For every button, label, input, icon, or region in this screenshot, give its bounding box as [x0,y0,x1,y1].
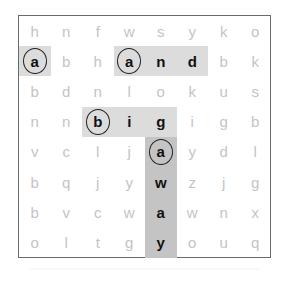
grid-cell-r7-c1[interactable]: l [51,227,83,257]
grid-cell-r4-c7[interactable]: l [240,137,272,167]
grid-cell-r5-c1[interactable]: q [51,167,83,197]
grid-cell-r0-c5[interactable]: y [177,16,209,46]
grid-cell-r5-c2[interactable]: j [82,167,114,197]
grid-letter: o [157,83,165,100]
grid-cell-r3-c4[interactable]: g [145,107,177,137]
grid-cell-r2-c0[interactable]: b [19,76,51,106]
grid-cell-r3-c7[interactable]: b [240,107,272,137]
grid-cell-r0-c3[interactable]: w [114,16,146,46]
grid-cell-r1-c4[interactable]: n [145,46,177,76]
grid-cell-r0-c7[interactable]: o [240,16,272,46]
word-search-board: hnfwsykoabhandbkbdnlokusnnbigigbvcljaydl… [18,15,271,258]
grid-letter: w [124,23,135,40]
grid-cell-r1-c5[interactable]: d [177,46,209,76]
grid-cell-r0-c2[interactable]: f [82,16,114,46]
grid-cell-r1-c7[interactable]: k [240,46,272,76]
grid-cell-r6-c5[interactable]: w [177,197,209,227]
grid-letter: l [65,234,68,251]
grid-cell-r7-c2[interactable]: t [82,227,114,257]
grid-cell-r1-c2[interactable]: h [82,46,114,76]
grid-letter: w [187,204,198,221]
grid-cell-r3-c0[interactable]: n [19,107,51,137]
grid-cell-r7-c7[interactable]: q [240,227,272,257]
grid-cell-r4-c2[interactable]: l [82,137,114,167]
grid-letter: g [156,113,165,130]
grid-cell-r7-c3[interactable]: g [114,227,146,257]
grid-cell-r2-c6[interactable]: u [208,76,240,106]
grid-letter: y [157,234,165,251]
grid-letter: a [31,53,39,70]
grid-cell-r5-c4[interactable]: w [145,167,177,197]
grid-cell-r4-c6[interactable]: d [208,137,240,167]
grid-letter: g [125,234,133,251]
grid-letter: o [188,234,196,251]
grid-cell-r4-c4[interactable]: a [145,137,177,167]
grid-cell-r2-c7[interactable]: s [240,76,272,106]
grid-letter: y [189,143,197,160]
grid-cell-r3-c2[interactable]: b [82,107,114,137]
grid-cell-r2-c1[interactable]: d [51,76,83,106]
grid-cell-r7-c0[interactable]: o [19,227,51,257]
grid-letter: o [31,234,39,251]
grid-cell-r5-c7[interactable]: g [240,167,272,197]
grid-cell-r6-c0[interactable]: b [19,197,51,227]
grid-cell-r5-c6[interactable]: j [208,167,240,197]
grid-cell-r6-c6[interactable]: n [208,197,240,227]
grid-cell-r6-c7[interactable]: x [240,197,272,227]
grid-cell-r3-c3[interactable]: i [114,107,146,137]
grid-cell-r5-c5[interactable]: z [177,167,209,197]
grid-letter: v [31,143,39,160]
grid-cell-r7-c4[interactable]: y [145,227,177,257]
grid-letter: d [62,83,70,100]
grid-letter: n [156,53,165,70]
grid-cell-r4-c1[interactable]: c [51,137,83,167]
grid-letter: w [155,174,167,191]
grid-letter: f [96,23,100,40]
grid-letter: k [220,23,228,40]
grid-cell-r6-c2[interactable]: c [82,197,114,227]
grid-letter: q [251,234,259,251]
grid-cell-r7-c5[interactable]: o [177,227,209,257]
grid-letter: b [31,204,39,221]
grid-cell-r0-c0[interactable]: h [19,16,51,46]
grid-letter: z [189,174,197,191]
grid-cell-r6-c4[interactable]: a [145,197,177,227]
grid-letter: n [62,113,70,130]
grid-cell-r5-c0[interactable]: b [19,167,51,197]
grid-cell-r6-c3[interactable]: w [114,197,146,227]
grid-letter: j [222,174,225,191]
grid-cell-r0-c1[interactable]: n [51,16,83,46]
grid-letter: i [127,113,131,130]
grid-cell-r4-c3[interactable]: j [114,137,146,167]
grid-cell-r1-c0[interactable]: a [19,46,51,76]
grid-letter: b [93,113,102,130]
grid-letter: u [220,234,228,251]
grid-letter: b [31,174,39,191]
grid-letter: h [31,23,39,40]
grid-cell-r2-c3[interactable]: l [114,76,146,106]
grid-cell-r1-c1[interactable]: b [51,46,83,76]
grid-letter: o [251,23,259,40]
grid-letter: h [94,53,102,70]
grid-cell-r7-c6[interactable]: u [208,227,240,257]
grid-cell-r5-c3[interactable]: y [114,167,146,197]
grid-letter: a [125,53,133,70]
grid-cell-r4-c5[interactable]: y [177,137,209,167]
grid-cell-r1-c6[interactable]: b [208,46,240,76]
grid-cell-r3-c6[interactable]: g [208,107,240,137]
grid-cell-r1-c3[interactable]: a [114,46,146,76]
grid-letter: l [254,143,257,160]
grid-letter: l [96,143,99,160]
grid-cell-r0-c6[interactable]: k [208,16,240,46]
grid-cell-r3-c1[interactable]: n [51,107,83,137]
grid-cell-r2-c5[interactable]: k [177,76,209,106]
grid-cell-r0-c4[interactable]: s [145,16,177,46]
grid-cell-r4-c0[interactable]: v [19,137,51,167]
grid-cell-r6-c1[interactable]: v [51,197,83,227]
grid-letter: d [188,53,197,70]
grid-letter: k [252,53,260,70]
grid-letter: n [94,83,102,100]
grid-cell-r2-c2[interactable]: n [82,76,114,106]
grid-cell-r3-c5[interactable]: i [177,107,209,137]
grid-cell-r2-c4[interactable]: o [145,76,177,106]
